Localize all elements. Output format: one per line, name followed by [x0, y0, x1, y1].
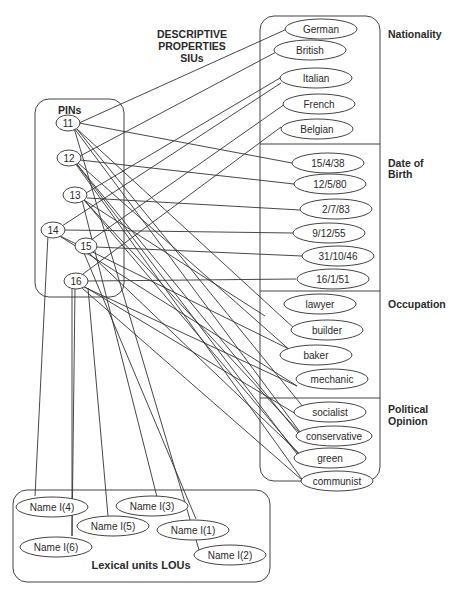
category-occupation: Occupation — [388, 298, 446, 310]
svg-text:16/1/51: 16/1/51 — [316, 274, 350, 285]
category-political-2: Opinion — [388, 415, 428, 427]
lexical-name-6[interactable]: Name I(6) — [20, 537, 92, 557]
svg-text:12: 12 — [63, 153, 75, 164]
svg-text:socialist: socialist — [312, 407, 348, 418]
lexical-title: Lexical units LOUs — [91, 559, 190, 571]
property-dob-31-10-46[interactable]: 31/10/46 — [302, 246, 374, 266]
svg-text:lawyer: lawyer — [306, 299, 336, 310]
svg-text:15: 15 — [80, 241, 92, 252]
property-german[interactable]: German — [285, 19, 357, 39]
svg-text:conservative: conservative — [306, 431, 363, 442]
property-mechanic[interactable]: mechanic — [296, 369, 368, 389]
svg-text:Italian: Italian — [303, 73, 330, 84]
svg-text:German: German — [303, 24, 339, 35]
svg-text:12/5/80: 12/5/80 — [313, 179, 347, 190]
pin-node-14[interactable]: 14 — [41, 222, 65, 238]
category-dob-2: Birth — [388, 168, 413, 180]
svg-text:French: French — [303, 99, 334, 110]
lexical-name-2[interactable]: Name I(2) — [194, 545, 266, 565]
property-french[interactable]: French — [283, 94, 355, 114]
property-socialist[interactable]: socialist — [294, 402, 366, 422]
svg-text:2/7/83: 2/7/83 — [322, 204, 350, 215]
svg-text:Name I(6): Name I(6) — [34, 542, 78, 553]
svg-text:Name I(2): Name I(2) — [208, 550, 252, 561]
property-lawyer[interactable]: lawyer — [284, 294, 356, 314]
pin-node-13[interactable]: 13 — [63, 187, 87, 203]
lexical-name-3[interactable]: Name I(3) — [116, 496, 188, 516]
pin-node-15[interactable]: 15 — [75, 238, 97, 254]
lexical-name-4[interactable]: Name I(4) — [16, 497, 88, 517]
pin-node-12[interactable]: 12 — [57, 150, 81, 166]
lexical-name-5[interactable]: Name I(5) — [77, 516, 149, 536]
property-dob-16-1-51[interactable]: 16/1/51 — [297, 269, 369, 289]
svg-text:13: 13 — [69, 190, 81, 201]
property-italian[interactable]: Italian — [280, 68, 352, 88]
svg-text:Name I(1): Name I(1) — [171, 525, 215, 536]
svg-text:baker: baker — [303, 350, 329, 361]
property-communist[interactable]: communist — [301, 471, 373, 491]
descriptive-title-3: SIUs — [180, 52, 204, 64]
svg-text:British: British — [296, 45, 324, 56]
svg-text:Belgian: Belgian — [300, 124, 333, 135]
property-dob-2-7-83[interactable]: 2/7/83 — [300, 199, 372, 219]
property-belgian[interactable]: Belgian — [281, 119, 353, 139]
pins-title: PINs — [58, 104, 82, 116]
property-green[interactable]: green — [294, 448, 366, 468]
descriptive-title-1: DESCRIPTIVE — [157, 28, 227, 40]
svg-text:communist: communist — [313, 476, 362, 487]
property-conservative[interactable]: conservative — [296, 426, 372, 446]
property-dob-12-5-80[interactable]: 12/5/80 — [294, 174, 366, 194]
svg-text:14: 14 — [47, 225, 59, 236]
svg-text:9/12/55: 9/12/55 — [312, 228, 346, 239]
svg-text:green: green — [317, 453, 343, 464]
category-political-1: Political — [388, 403, 428, 415]
svg-text:16: 16 — [70, 276, 82, 287]
svg-text:Name I(3): Name I(3) — [130, 501, 174, 512]
category-nationality: Nationality — [388, 28, 442, 40]
property-dob-15-4-38[interactable]: 15/4/38 — [292, 153, 364, 173]
svg-text:Name I(5): Name I(5) — [91, 521, 135, 532]
pin-node-11[interactable]: 11 — [56, 115, 80, 131]
property-british[interactable]: British — [274, 40, 346, 60]
lexical-name-1[interactable]: Name I(1) — [157, 520, 229, 540]
svg-text:Name I(4): Name I(4) — [30, 502, 74, 513]
svg-text:31/10/46: 31/10/46 — [319, 251, 358, 262]
property-builder[interactable]: builder — [291, 320, 363, 340]
svg-text:11: 11 — [63, 118, 74, 129]
pin-node-16[interactable]: 16 — [64, 273, 88, 289]
property-dob-9-12-55[interactable]: 9/12/55 — [293, 223, 365, 243]
svg-text:15/4/38: 15/4/38 — [311, 158, 345, 169]
pin-siu-diagram: DESCRIPTIVE PROPERTIES SIUs PINs Lexical… — [0, 0, 456, 589]
svg-text:builder: builder — [312, 325, 343, 336]
property-baker[interactable]: baker — [280, 345, 352, 365]
descriptive-title-2: PROPERTIES — [158, 40, 226, 52]
svg-text:mechanic: mechanic — [311, 374, 354, 385]
